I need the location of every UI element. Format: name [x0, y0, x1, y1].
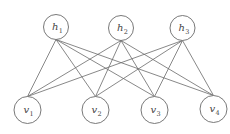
- node-label-subscript: 1: [29, 110, 33, 118]
- node-label-base: h: [117, 22, 123, 33]
- node-v3: v3: [141, 97, 168, 124]
- edge-h3-v1: [28, 41, 183, 97]
- node-h1: h1: [44, 15, 69, 40]
- node-label-subscript: 3: [185, 28, 189, 36]
- edge-h1-v4: [56, 40, 214, 96]
- bipartite-graph-diagram: h1h2h3v1v2v3v4: [0, 0, 230, 134]
- node-v1: v1: [14, 97, 41, 124]
- node-label-base: h: [52, 21, 58, 32]
- node-label-subscript: 1: [59, 27, 63, 35]
- node-label-subscript: 2: [97, 110, 101, 118]
- edge-h2-v4: [121, 41, 214, 96]
- edges-group: [28, 40, 214, 97]
- nodes-group: h1h2h3v1v2v3v4: [14, 15, 227, 124]
- edge-h3-v4: [183, 41, 214, 96]
- edge-h2-v3: [121, 41, 155, 97]
- node-label-subscript: 2: [124, 28, 128, 36]
- node-label-subscript: 4: [215, 109, 219, 117]
- node-label-base: h: [179, 22, 185, 33]
- node-h3: h3: [170, 16, 195, 41]
- node-v4: v4: [200, 96, 227, 123]
- node-h2: h2: [109, 16, 134, 41]
- node-label-subscript: 3: [156, 110, 160, 118]
- node-v2: v2: [82, 97, 109, 124]
